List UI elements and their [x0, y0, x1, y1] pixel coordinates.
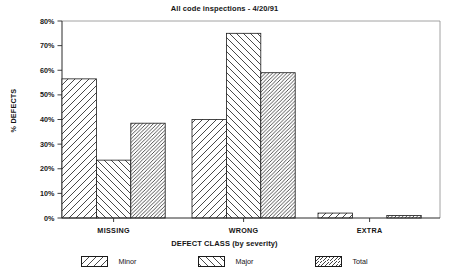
y-tick-label: 60% [40, 66, 55, 75]
legend-label-total: Total [352, 257, 367, 266]
x-tick-label-wrong: WRONG [229, 226, 259, 235]
y-tick-label: 40% [40, 115, 55, 124]
bar-missing-total [131, 123, 165, 218]
legend-entry-major: Major [198, 256, 253, 267]
chart-legend: Minor Major Total [0, 252, 449, 270]
bar-wrong-major [226, 33, 260, 218]
legend-entry-minor: Minor [81, 256, 136, 267]
legend-swatch-total [315, 256, 342, 267]
bar-extra-minor [318, 213, 352, 218]
y-tick-label: 20% [40, 164, 55, 173]
y-tick-label: 0% [44, 214, 55, 223]
legend-label-minor: Minor [118, 257, 136, 266]
y-tick-label: 70% [40, 41, 55, 50]
x-tick-label-extra: EXTRA [357, 226, 383, 235]
legend-label-major: Major [235, 257, 253, 266]
x-tick-label-missing: MISSING [97, 226, 130, 235]
bar-wrong-total [261, 73, 295, 218]
legend-swatch-major [198, 256, 225, 267]
plot-area: 0%10%20%30%40%50%60%70%80%MISSINGWRONGEX… [0, 0, 449, 277]
y-tick-label: 10% [40, 189, 55, 198]
legend-swatch-minor [81, 256, 108, 267]
bar-wrong-minor [192, 120, 226, 219]
y-tick-label: 30% [40, 140, 55, 149]
bar-missing-major [96, 160, 130, 218]
x-axis-label: DEFECT CLASS (by severity) [0, 239, 449, 248]
y-tick-label: 50% [40, 90, 55, 99]
legend-entry-total: Total [315, 256, 367, 267]
bar-missing-minor [62, 79, 96, 218]
chart-container: All code inspections - 4/20/91 % DEFECTS [0, 0, 449, 277]
y-tick-label: 80% [40, 17, 55, 26]
